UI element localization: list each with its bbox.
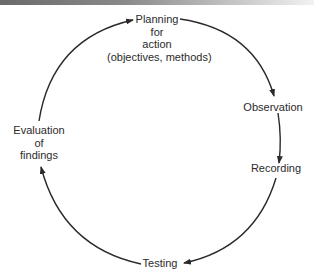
arrow-recording-to-testing	[184, 178, 276, 263]
node-evaluation: Evaluation of findings	[8, 124, 70, 162]
node-observation: Observation	[240, 101, 306, 114]
arrow-observation-to-recording	[278, 113, 280, 163]
node-observation-label: Observation	[240, 101, 306, 114]
arrow-testing-to-evaluation	[41, 167, 141, 264]
node-planning-line-4: (objectives, methods)	[107, 51, 207, 64]
node-planning-line-1: Planning	[107, 13, 207, 26]
node-evaluation-line-3: findings	[8, 149, 70, 162]
node-recording-label: Recording	[246, 162, 306, 175]
node-testing-label: Testing	[136, 257, 184, 270]
node-evaluation-line-2: of	[8, 137, 70, 150]
node-planning-line-2: for	[107, 26, 207, 39]
node-planning-line-3: action	[107, 38, 207, 51]
node-planning: Planning for action (objectives, methods…	[107, 13, 207, 63]
node-evaluation-line-1: Evaluation	[8, 124, 70, 137]
node-testing: Testing	[136, 257, 184, 270]
node-recording: Recording	[246, 162, 306, 175]
